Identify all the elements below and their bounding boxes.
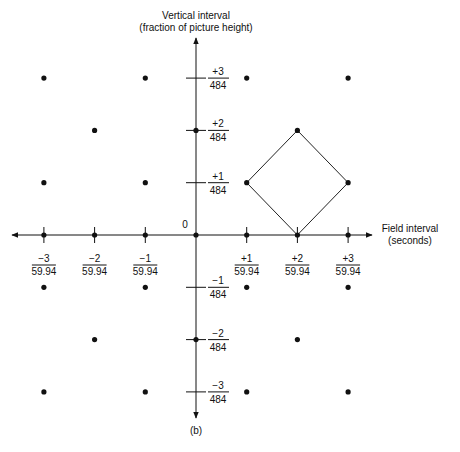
y-tick-denominator: 484: [210, 80, 227, 91]
y-tick-numerator: +3: [212, 66, 224, 77]
lattice-point: [193, 337, 198, 342]
lattice-point: [346, 285, 351, 290]
lattice-point: [295, 128, 300, 133]
x-tick-denominator: 59.94: [82, 266, 107, 277]
y-tick-denominator: 484: [210, 185, 227, 196]
y-axis-title-line2: (fraction of picture height): [139, 22, 252, 33]
y-tick-numerator: +1: [212, 171, 224, 182]
y-tick-numerator: −3: [212, 380, 224, 391]
lattice-point: [346, 180, 351, 185]
lattice-point: [41, 232, 46, 237]
x-tick-denominator: 59.94: [285, 266, 310, 277]
lattice-point: [244, 76, 249, 81]
lattice-point: [41, 180, 46, 185]
lattice-point: [244, 285, 249, 290]
sampling-lattice-diagram: −359.94−259.94−159.94+159.94+259.94+359.…: [0, 0, 460, 452]
y-tick-denominator: 484: [210, 394, 227, 405]
lattice-point: [295, 232, 300, 237]
lattice-point: [244, 232, 249, 237]
x-tick-denominator: 59.94: [133, 266, 158, 277]
lattice-point: [41, 76, 46, 81]
lattice-point: [143, 232, 148, 237]
y-axis-title-line1: Vertical interval: [162, 10, 230, 21]
x-tick-numerator: −2: [89, 253, 101, 264]
lattice-point: [143, 180, 148, 185]
x-tick-numerator: +2: [292, 253, 304, 264]
y-tick-denominator: 484: [210, 342, 227, 353]
x-tick-numerator: +3: [342, 253, 354, 264]
lattice-point: [41, 285, 46, 290]
x-tick-denominator: 59.94: [31, 266, 56, 277]
origin-label: 0: [182, 219, 188, 230]
x-tick-denominator: 59.94: [234, 266, 259, 277]
lattice-point: [92, 128, 97, 133]
y-tick-numerator: −1: [212, 275, 224, 286]
x-axis-title-line1: Field interval: [382, 223, 439, 234]
x-axis-title-line2: (seconds): [388, 235, 432, 246]
lattice-point: [193, 128, 198, 133]
x-tick-denominator: 59.94: [336, 266, 361, 277]
lattice-point: [92, 232, 97, 237]
lattice-point: [244, 180, 249, 185]
lattice-point: [92, 337, 97, 342]
lattice-point: [295, 337, 300, 342]
lattice-point: [143, 76, 148, 81]
y-tick-numerator: −2: [212, 328, 224, 339]
lattice-point: [346, 389, 351, 394]
lattice-point: [193, 232, 198, 237]
x-tick-numerator: −1: [140, 253, 152, 264]
lattice-point: [143, 285, 148, 290]
x-tick-numerator: −3: [38, 253, 50, 264]
figure-caption: (b): [190, 425, 202, 436]
lattice-point: [244, 389, 249, 394]
lattice-point: [346, 76, 351, 81]
lattice-point: [143, 389, 148, 394]
y-tick-numerator: +2: [212, 118, 224, 129]
y-tick-denominator: 484: [210, 289, 227, 300]
x-tick-numerator: +1: [241, 253, 253, 264]
sampling-diamond: [247, 130, 348, 235]
lattice-point: [346, 232, 351, 237]
y-tick-denominator: 484: [210, 132, 227, 143]
lattice-point: [41, 389, 46, 394]
